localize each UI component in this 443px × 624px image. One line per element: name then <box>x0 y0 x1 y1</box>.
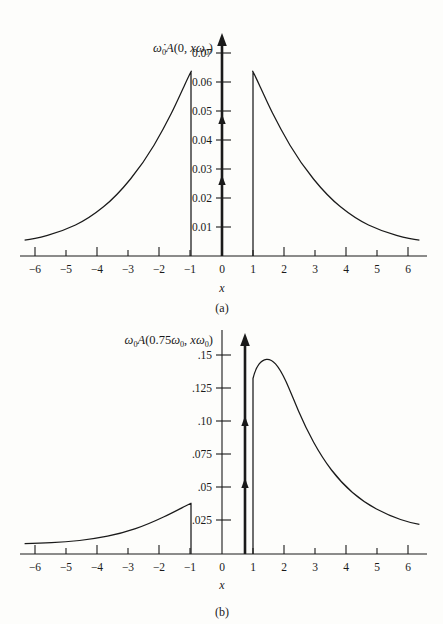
svg-text:−1: −1 <box>184 561 196 573</box>
svg-text:−3: −3 <box>122 263 134 275</box>
panel-b-caption: (b) <box>215 605 229 619</box>
panel-a-plot: ω̇0A(0, xω0) −6 − <box>0 0 443 318</box>
svg-text:3: 3 <box>312 561 318 573</box>
panel-a-caption: (a) <box>215 301 228 315</box>
panel-a: ω̇0A(0, xω0) −6 − <box>0 0 443 318</box>
panel-a-x-axis-name: x <box>218 281 225 295</box>
svg-text:.125: .125 <box>192 382 212 394</box>
panel-b-x-tick-labels: −6 −5 −4 −3 −2 −1 0 1 2 3 4 5 6 <box>29 561 411 573</box>
panel-b-y-ticks <box>216 355 231 520</box>
svg-text:0.06: 0.06 <box>192 76 212 88</box>
svg-text:−4: −4 <box>91 561 103 573</box>
svg-text:−5: −5 <box>60 561 72 573</box>
panel-b-delta-spike <box>240 333 250 554</box>
svg-text:0.04: 0.04 <box>192 134 212 146</box>
svg-text:6: 6 <box>405 561 411 573</box>
svg-text:−1: −1 <box>184 263 196 275</box>
svg-text:−3: −3 <box>122 561 134 573</box>
svg-text:0.03: 0.03 <box>192 163 212 175</box>
svg-text:.025: .025 <box>192 514 212 526</box>
panel-a-x-tick-labels: −6 −5 −4 −3 −2 −1 0 1 2 3 4 5 6 <box>29 263 411 275</box>
svg-text:.15: .15 <box>198 349 213 361</box>
svg-text:6: 6 <box>405 263 411 275</box>
svg-text:0.01: 0.01 <box>192 221 212 233</box>
svg-text:−5: −5 <box>60 263 72 275</box>
svg-text:5: 5 <box>374 561 380 573</box>
figure-container: ω̇0A(0, xω0) −6 − <box>0 0 443 624</box>
svg-text:3: 3 <box>312 263 318 275</box>
svg-text:.10: .10 <box>198 415 213 427</box>
svg-text:1: 1 <box>250 263 256 275</box>
svg-text:0.07: 0.07 <box>192 47 212 59</box>
svg-text:−4: −4 <box>91 263 103 275</box>
panel-a-left-branch <box>25 71 192 256</box>
panel-b: ω0A(0.75ω0, xω0) −6 <box>0 318 443 624</box>
svg-text:.075: .075 <box>192 448 212 460</box>
svg-text:0.05: 0.05 <box>192 105 212 117</box>
svg-text:−2: −2 <box>153 263 165 275</box>
svg-text:−6: −6 <box>29 561 41 573</box>
panel-a-y-tick-labels: 0.01 0.02 0.03 0.04 0.05 0.06 0.07 <box>192 47 212 233</box>
svg-text:4: 4 <box>343 561 349 573</box>
svg-text:2: 2 <box>281 263 287 275</box>
svg-text:2: 2 <box>281 561 287 573</box>
svg-text:4: 4 <box>343 263 349 275</box>
panel-b-y-axis-label: ω0A(0.75ω0, xω0) <box>125 333 213 349</box>
svg-text:−2: −2 <box>153 561 165 573</box>
svg-text:−6: −6 <box>29 263 41 275</box>
svg-text:.05: .05 <box>198 481 213 493</box>
svg-text:5: 5 <box>374 263 380 275</box>
panel-b-x-axis-name: x <box>218 578 225 592</box>
svg-text:0.02: 0.02 <box>192 192 212 204</box>
panel-a-delta-spike <box>217 33 227 256</box>
panel-b-y-tick-labels: .025 .05 .075 .10 .125 .15 <box>192 349 212 526</box>
panel-a-right-branch <box>253 71 420 256</box>
panel-b-plot: ω0A(0.75ω0, xω0) −6 <box>0 318 443 624</box>
svg-text:1: 1 <box>250 561 256 573</box>
panel-b-left-lobe <box>25 503 191 554</box>
svg-text:0: 0 <box>219 561 225 573</box>
panel-a-y-ticks <box>216 53 231 227</box>
svg-text:0: 0 <box>219 263 225 275</box>
panel-b-right-lobe <box>253 359 419 554</box>
